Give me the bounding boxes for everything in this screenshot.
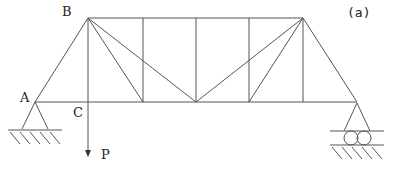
member-AB bbox=[35, 18, 88, 102]
figure-tag: (a) bbox=[347, 5, 370, 20]
label-P: P bbox=[101, 147, 110, 162]
member-right-end bbox=[303, 18, 357, 102]
label-C: C bbox=[73, 105, 83, 120]
diagonal-R-1 bbox=[249, 18, 303, 102]
diagonal-B-1 bbox=[88, 18, 143, 102]
label-A: A bbox=[19, 90, 30, 105]
diagonal-B-2 bbox=[88, 18, 196, 102]
truss-diagram: B A C P (a) bbox=[0, 0, 395, 175]
truss-members bbox=[35, 18, 357, 155]
roller-support bbox=[330, 103, 384, 159]
load-arrow-icon bbox=[85, 150, 91, 157]
label-B: B bbox=[62, 4, 72, 19]
pin-support bbox=[8, 102, 62, 144]
